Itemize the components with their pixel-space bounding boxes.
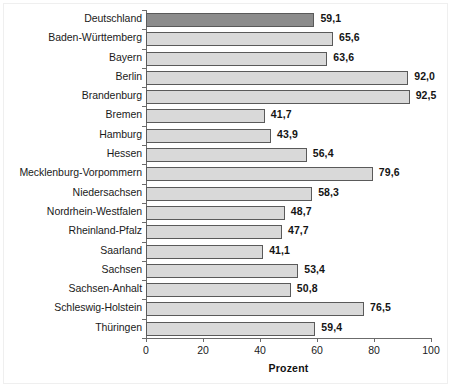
y-tick-mark bbox=[142, 126, 146, 127]
y-tick-mark bbox=[142, 10, 146, 11]
bar-value-label: 76,5 bbox=[370, 301, 391, 313]
y-tick-mark bbox=[142, 319, 146, 320]
bar-row: 50,8 bbox=[146, 280, 431, 301]
x-tick-mark bbox=[431, 338, 432, 342]
category-label: Hessen bbox=[2, 147, 142, 159]
bar-row: 47,7 bbox=[146, 222, 431, 243]
category-label: Sachsen-Anhalt bbox=[2, 282, 142, 294]
bar-value-label: 59,4 bbox=[321, 321, 342, 333]
y-tick-mark bbox=[142, 299, 146, 300]
bar bbox=[146, 167, 373, 181]
bar-row: 41,1 bbox=[146, 242, 431, 263]
bar-value-label: 43,9 bbox=[277, 128, 298, 140]
y-tick-mark bbox=[142, 164, 146, 165]
bar bbox=[146, 264, 298, 278]
category-label: Saarland bbox=[2, 244, 142, 256]
bar-row: 65,6 bbox=[146, 29, 431, 50]
bar-value-label: 53,4 bbox=[304, 263, 325, 275]
category-label: Thüringen bbox=[2, 321, 142, 333]
bar bbox=[146, 283, 291, 297]
bar-value-label: 48,7 bbox=[291, 205, 312, 217]
category-label: Bremen bbox=[2, 108, 142, 120]
bar-row: 79,6 bbox=[146, 164, 431, 185]
bar-row: 92,0 bbox=[146, 68, 431, 89]
bar-row: 48,7 bbox=[146, 203, 431, 224]
bar bbox=[146, 52, 327, 66]
x-tick-label: 40 bbox=[254, 344, 266, 356]
bar bbox=[146, 302, 364, 316]
bar-value-label: 58,3 bbox=[318, 186, 339, 198]
bar bbox=[146, 187, 312, 201]
bar bbox=[146, 245, 263, 259]
x-tick-mark bbox=[203, 338, 204, 342]
bar bbox=[146, 129, 271, 143]
bar-value-label: 41,7 bbox=[271, 108, 292, 120]
bar-row: 59,4 bbox=[146, 319, 431, 340]
bar-value-label: 63,6 bbox=[333, 51, 354, 63]
y-tick-mark bbox=[142, 280, 146, 281]
x-tick-label: 60 bbox=[311, 344, 323, 356]
x-tick-mark bbox=[374, 338, 375, 342]
category-label: Sachsen bbox=[2, 263, 142, 275]
y-tick-mark bbox=[142, 87, 146, 88]
category-label: Nordrhein-Westfalen bbox=[2, 205, 142, 217]
x-tick-label: 20 bbox=[197, 344, 209, 356]
x-tick-label: 100 bbox=[422, 344, 440, 356]
bar-row: 53,4 bbox=[146, 261, 431, 282]
y-tick-mark bbox=[142, 261, 146, 262]
bar-value-label: 59,1 bbox=[320, 12, 341, 24]
bar-row: 59,1 bbox=[146, 10, 431, 31]
bar bbox=[146, 322, 315, 336]
y-tick-mark bbox=[142, 222, 146, 223]
bar bbox=[146, 206, 285, 220]
category-label: Brandenburg bbox=[2, 89, 142, 101]
bar-row: 92,5 bbox=[146, 87, 431, 108]
category-label: Berlin bbox=[2, 70, 142, 82]
bar bbox=[146, 109, 265, 123]
bar bbox=[146, 71, 408, 85]
y-tick-mark bbox=[142, 68, 146, 69]
category-label: Bayern bbox=[2, 51, 142, 63]
y-tick-mark bbox=[142, 106, 146, 107]
bar-value-label: 56,4 bbox=[313, 147, 334, 159]
bar-value-label: 50,8 bbox=[297, 282, 318, 294]
bar bbox=[146, 225, 282, 239]
bar-value-label: 92,0 bbox=[414, 70, 435, 82]
y-tick-mark bbox=[142, 184, 146, 185]
x-tick-mark bbox=[260, 338, 261, 342]
bar-row: 56,4 bbox=[146, 145, 431, 166]
bar-row: 76,5 bbox=[146, 299, 431, 320]
bar-value-label: 92,5 bbox=[416, 89, 437, 101]
bar-value-label: 41,1 bbox=[269, 244, 290, 256]
category-label: Mecklenburg-Vorpommern bbox=[2, 166, 142, 178]
x-tick-mark bbox=[146, 338, 147, 342]
bar-row: 41,7 bbox=[146, 106, 431, 127]
y-tick-mark bbox=[142, 29, 146, 30]
bar bbox=[146, 32, 333, 46]
bar-value-label: 79,6 bbox=[379, 166, 400, 178]
category-label: Deutschland bbox=[2, 12, 142, 24]
category-label: Baden-Württemberg bbox=[2, 31, 142, 43]
bar-chart-figure: DeutschlandBaden-WürttembergBayernBerlin… bbox=[0, 0, 451, 387]
y-tick-mark bbox=[142, 242, 146, 243]
category-label: Hamburg bbox=[2, 128, 142, 140]
category-axis-labels: DeutschlandBaden-WürttembergBayernBerlin… bbox=[0, 10, 142, 338]
y-tick-mark bbox=[142, 203, 146, 204]
category-label: Schleswig-Holstein bbox=[2, 301, 142, 313]
bar bbox=[146, 148, 307, 162]
plot-area: 59,165,663,692,092,541,743,956,479,658,3… bbox=[146, 10, 431, 338]
bar-row: 43,9 bbox=[146, 126, 431, 147]
bar bbox=[146, 13, 314, 27]
bar-value-label: 47,7 bbox=[288, 224, 309, 236]
x-tick-label: 80 bbox=[368, 344, 380, 356]
bar-row: 63,6 bbox=[146, 49, 431, 70]
category-label: Rheinland-Pfalz bbox=[2, 224, 142, 236]
bar-row: 58,3 bbox=[146, 184, 431, 205]
y-tick-mark bbox=[142, 145, 146, 146]
x-tick-mark bbox=[317, 338, 318, 342]
bar-value-label: 65,6 bbox=[339, 31, 360, 43]
bar bbox=[146, 90, 410, 104]
category-label: Niedersachsen bbox=[2, 186, 142, 198]
x-axis-title: Prozent bbox=[146, 362, 431, 374]
y-tick-mark bbox=[142, 49, 146, 50]
